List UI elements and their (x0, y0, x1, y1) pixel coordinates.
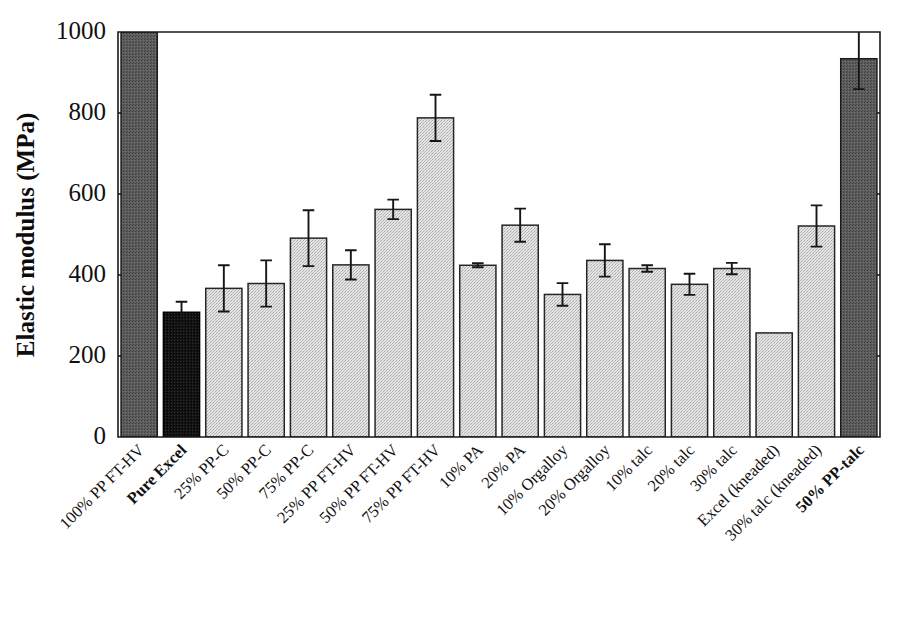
bar (671, 284, 707, 437)
elastic-modulus-bar-chart: Elastic modulus (MPa) 02004006008001000 … (0, 0, 911, 637)
bar (502, 225, 538, 437)
y-tick-label: 200 (69, 341, 107, 368)
x-axis-label: 10% PA (435, 440, 487, 492)
bars-group (121, 32, 877, 437)
bar (714, 269, 750, 437)
bar (121, 32, 157, 437)
bar (587, 260, 623, 437)
bar (375, 209, 411, 437)
x-axis-labels: 100% PP FT-HVPure Excel25% PP-C50% PP-C7… (56, 440, 868, 545)
bar (163, 312, 199, 437)
bar (841, 59, 877, 437)
y-tick-label: 600 (69, 179, 107, 206)
bar (290, 238, 326, 437)
bar (333, 265, 369, 437)
y-tick-label: 400 (69, 260, 107, 287)
bar (417, 118, 453, 437)
bar (798, 226, 834, 437)
bar (544, 294, 580, 437)
y-tick-label: 800 (69, 98, 107, 125)
y-tick-label: 0 (94, 422, 107, 449)
bar (460, 265, 496, 437)
bar (629, 269, 665, 437)
chart-svg: Elastic modulus (MPa) 02004006008001000 … (0, 0, 911, 637)
y-axis-title: Elastic modulus (MPa) (12, 113, 40, 357)
bar (756, 333, 792, 437)
y-tick-label: 1000 (56, 17, 106, 44)
